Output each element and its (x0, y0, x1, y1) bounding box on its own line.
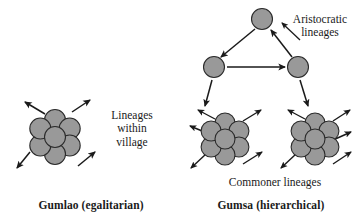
commoner-lineage-ring-left-arrow-ll (191, 154, 206, 168)
commoner-lineage-ring-left-arrow-ur (243, 110, 261, 121)
arrow-top-to-left (221, 29, 255, 57)
arrow-upper-left (25, 102, 45, 114)
commoner-lineage-ring-left-node-6 (215, 129, 235, 149)
aristocratic-node-left (204, 57, 225, 78)
kachin-social-structure-diagram: Lineageswithinvillage Aristocraticlineag… (0, 0, 357, 224)
gumlao-caption: Gumlao (egalitarian) (8, 199, 174, 212)
lineages-within-village-line-2: village (96, 136, 168, 149)
lineages-within-village-line-0: Lineages (96, 109, 168, 122)
aristocratic-node-top (252, 9, 273, 30)
arrow-lower-left (17, 152, 30, 168)
village-lineage-node-6 (45, 127, 66, 148)
aristocratic-to-commoner-arrows (205, 80, 308, 106)
commoner-lineage-ring-right-arrow-ul (288, 110, 305, 119)
commoner-lineage-ring-right-node-6 (305, 129, 325, 149)
lineages-within-village-label: Lineageswithinvillage (96, 109, 168, 149)
arrow-left-descent (205, 80, 212, 106)
gumsa-caption: Gumsa (hierarchical) (190, 199, 352, 212)
arrow-lower-right (78, 152, 95, 166)
aristocratic-lineages-label-line-1: lineages (283, 26, 357, 39)
arrow-upper-right (72, 100, 90, 112)
aristocratic-lineages-label: Aristocraticlineages (283, 13, 357, 40)
commoner-lineage-clusters (201, 113, 339, 165)
commoner-lineage-ring-right-arrow-ur (333, 110, 350, 121)
commoner-lineages-label: Commoner lineages (200, 176, 350, 189)
aristocratic-lineages-label-line-0: Aristocratic (283, 13, 357, 26)
commoner-lineage-ring-left-arrow-ul (198, 110, 215, 119)
gumlao-village-cluster (30, 110, 80, 165)
aristocratic-circulation-arrows (221, 29, 292, 67)
aristocratic-node-right (288, 57, 309, 78)
commoner-lineage-ring-right-arrow-ll (281, 154, 296, 168)
arrow-right-descent (300, 80, 308, 106)
lineages-within-village-line-1: within (96, 122, 168, 135)
